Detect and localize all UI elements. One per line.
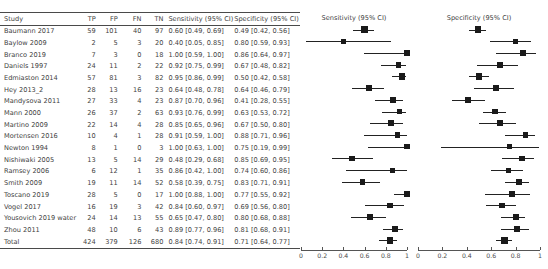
cell-tp: 8 <box>76 143 96 155</box>
table-row: Mann 200026372630.93 [0.76, 0.99]0.63 [0… <box>0 108 300 120</box>
table-row: Nishiwaki 200513514290.48 [0.29, 0.68]0.… <box>0 154 300 166</box>
sensitivity-axis: 00.20.40.60.81 <box>301 250 407 262</box>
study-estimate-marker <box>506 168 511 173</box>
table-row: Baumann 20175910140970.60 [0.49, 0.69]0.… <box>0 25 300 37</box>
ci-whisker <box>490 41 531 42</box>
cell-tn: 28 <box>141 131 168 143</box>
cell-fn: 0 <box>118 143 142 155</box>
table-row-total: Total4243791266800.84 [0.74, 0.91]0.71 [… <box>0 236 300 248</box>
cell-tp: 24 <box>76 61 96 73</box>
cell-fn: 40 <box>118 25 142 37</box>
study-estimate-marker <box>514 226 520 232</box>
table-row: Mandysova 201127334230.87 [0.70, 0.96]0.… <box>0 96 300 108</box>
cell-fp: 10 <box>96 224 118 236</box>
cell-fp: 1 <box>96 143 118 155</box>
cell-study: Mann 2000 <box>0 108 76 120</box>
axis-tick-label: 0.4 <box>338 252 348 259</box>
table-row: Smith 2009191114520.58 [0.39, 0.75]0.83 … <box>0 178 300 190</box>
ci-whisker <box>370 123 403 124</box>
ci-whisker <box>505 135 536 136</box>
study-estimate-marker <box>509 191 515 197</box>
cell-study: Toscano 2019 <box>0 189 76 201</box>
cell-fp: 5 <box>96 189 118 201</box>
cell-sensitivity-ci: 0.40 [0.05, 0.85] <box>168 37 234 49</box>
cell-fn: 4 <box>118 96 142 108</box>
study-estimate-marker <box>404 50 409 55</box>
cell-specificity-ci: 0.49 [0.42, 0.56] <box>234 25 300 37</box>
study-estimate-marker <box>523 132 528 137</box>
cell-specificity-ci: 0.88 [0.71, 0.96] <box>234 131 300 143</box>
cell-specificity-ci: 0.63 [0.53, 0.72] <box>234 108 300 120</box>
cell-fn: 14 <box>118 154 142 166</box>
col-header-tn: TN <box>141 13 168 26</box>
forest-plot-figure: Study TP FP FN TN Sensitivity (95% CI) S… <box>0 0 548 269</box>
axis-tick-label: 0.8 <box>511 252 521 259</box>
ci-whisker <box>365 205 404 206</box>
cell-sensitivity-ci: 0.65 [0.47, 0.80] <box>168 213 234 225</box>
study-estimate-marker <box>404 144 409 149</box>
cell-tn: 35 <box>141 166 168 178</box>
table-row: Edmiaston 201457813820.95 [0.86, 0.99]0.… <box>0 72 300 84</box>
axis-tick-label: 0.6 <box>360 252 370 259</box>
study-estimate-marker <box>396 62 402 68</box>
cell-study: Newton 1994 <box>0 143 76 155</box>
cell-fp: 13 <box>96 84 118 96</box>
study-estimate-marker <box>399 73 405 79</box>
ci-whisker <box>364 135 407 136</box>
cell-sensitivity-ci: 1.00 [0.63, 1.00] <box>168 143 234 155</box>
cell-fp: 379 <box>96 236 118 248</box>
cell-sensitivity-ci: 0.87 [0.70, 0.96] <box>168 96 234 108</box>
cell-tp: 22 <box>76 119 96 131</box>
cell-study: Baumann 2017 <box>0 25 76 37</box>
study-estimate-marker <box>497 62 503 68</box>
cell-sensitivity-ci: 0.93 [0.76, 0.99] <box>168 108 234 120</box>
cell-specificity-ci: 0.69 [0.56, 0.80] <box>234 201 300 213</box>
table-header-row: Study TP FP FN TN Sensitivity (95% CI) S… <box>0 13 300 26</box>
ci-whisker <box>485 194 530 195</box>
cell-tp: 16 <box>76 201 96 213</box>
cell-specificity-ci: 0.67 [0.48, 0.82] <box>234 61 300 73</box>
col-header-sensitivity: Sensitivity (95% CI) <box>168 13 234 26</box>
cell-tn: 3 <box>141 143 168 155</box>
study-estimate-marker <box>513 214 519 220</box>
cell-specificity-ci: 0.50 [0.42, 0.58] <box>234 72 300 84</box>
cell-fn: 4 <box>118 119 142 131</box>
study-estimate-marker <box>499 203 505 209</box>
study-estimate-marker <box>341 39 346 44</box>
study-estimate-marker <box>465 97 471 103</box>
study-estimate-marker <box>492 109 498 115</box>
study-table: Study TP FP FN TN Sensitivity (95% CI) S… <box>0 12 300 249</box>
table-row: Vogel 201716193420.84 [0.60, 0.97]0.69 [… <box>0 201 300 213</box>
cell-fn: 126 <box>118 236 142 248</box>
study-estimate-marker <box>366 85 372 91</box>
table-body: Baumann 20175910140970.60 [0.49, 0.69]0.… <box>0 25 300 248</box>
ci-whisker <box>496 53 536 54</box>
study-estimate-marker <box>493 85 499 91</box>
table-row: Ramsey 20066121350.86 [0.42, 1.00]0.74 [… <box>0 166 300 178</box>
axis-tick <box>407 247 408 250</box>
cell-sensitivity-ci: 0.85 [0.65, 0.96] <box>168 119 234 131</box>
cell-fn: 3 <box>118 72 142 84</box>
cell-tn: 55 <box>141 213 168 225</box>
cell-tp: 13 <box>76 154 96 166</box>
axis-tick <box>386 247 387 250</box>
ci-whisker <box>368 147 407 148</box>
cell-tp: 59 <box>76 25 96 37</box>
cell-specificity-ci: 0.83 [0.71, 0.91] <box>234 178 300 190</box>
forest-plot-table: Study TP FP FN TN Sensitivity (95% CI) S… <box>0 12 300 249</box>
axis-tick-label: 1 <box>405 252 409 259</box>
cell-study: Total <box>0 236 76 248</box>
cell-tp: 28 <box>76 84 96 96</box>
cell-study: Edmiaston 2014 <box>0 72 76 84</box>
cell-study: Martino 2009 <box>0 119 76 131</box>
ci-whisker <box>375 100 403 101</box>
cell-study: Branco 2019 <box>0 49 76 61</box>
cell-tp: 7 <box>76 49 96 61</box>
cell-specificity-ci: 0.85 [0.69, 0.95] <box>234 154 300 166</box>
cell-study: Ramsey 2006 <box>0 166 76 178</box>
cell-specificity-ci: 0.74 [0.60, 0.86] <box>234 166 300 178</box>
study-estimate-marker <box>475 26 481 32</box>
cell-tn: 23 <box>141 96 168 108</box>
axis-tick <box>322 247 323 250</box>
cell-specificity-ci: 0.64 [0.46, 0.79] <box>234 84 300 96</box>
